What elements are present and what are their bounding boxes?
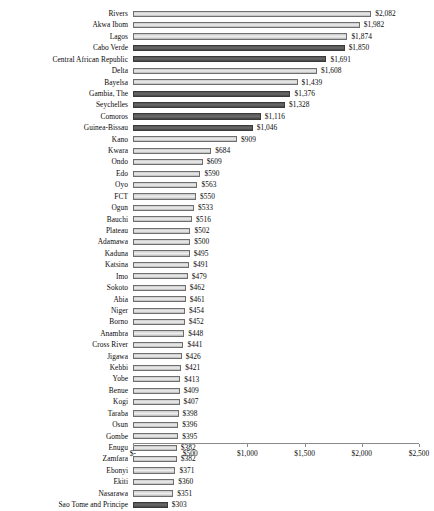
bar[interactable] [133, 182, 197, 188]
bar-row: Ekiti$360 [0, 476, 434, 487]
bar-value-label: $461 [190, 294, 205, 305]
bar[interactable] [133, 388, 180, 394]
bar-track: $448 [133, 328, 433, 339]
bar[interactable] [133, 410, 179, 416]
category-label: Kebbi [0, 362, 128, 373]
bar[interactable] [133, 148, 211, 154]
axis-tick-label: $2,000 [351, 448, 372, 459]
bar[interactable] [133, 399, 180, 405]
category-label: Kaduna [0, 248, 128, 259]
bar-value-label: $495 [194, 248, 209, 259]
bar[interactable] [133, 319, 185, 325]
bar-value-label: $398 [183, 408, 198, 419]
bar[interactable] [133, 296, 186, 302]
category-label: Comoros [0, 111, 128, 122]
bar-row: Niger$454 [0, 305, 434, 316]
bar[interactable] [133, 353, 182, 359]
bar-value-label: $303 [172, 499, 187, 510]
bar[interactable] [133, 239, 190, 245]
bar-row: Nasarawa$351 [0, 488, 434, 499]
bar[interactable] [133, 11, 371, 17]
category-label: Seychelles [0, 99, 128, 110]
bar[interactable] [133, 285, 186, 291]
bar[interactable] [133, 342, 183, 348]
category-label: Taraba [0, 408, 128, 419]
bar[interactable] [133, 171, 200, 177]
bar[interactable] [133, 330, 184, 336]
category-label: Sokoto [0, 282, 128, 293]
bar-value-label: $360 [178, 476, 193, 487]
bar[interactable] [133, 467, 175, 473]
category-label: Rivers [0, 8, 128, 19]
bar[interactable] [133, 365, 181, 371]
bar-value-label: $491 [193, 259, 208, 270]
bar[interactable] [133, 490, 173, 496]
chart-plot-area: Rivers$2,082Akwa Ibom$1,982Lagos$1,874Ca… [0, 8, 434, 511]
bar-value-label: $1,874 [351, 31, 372, 42]
bar-track: $461 [133, 294, 433, 305]
category-label: Jigawa [0, 351, 128, 362]
bar[interactable] [133, 125, 253, 131]
bar[interactable] [133, 193, 196, 199]
bar-row: Ebonyi$371 [0, 465, 434, 476]
bar-track: $407 [133, 396, 433, 407]
bar[interactable] [133, 45, 345, 51]
bar-track: $2,082 [133, 8, 433, 19]
category-label: Sao Tome and Principe [0, 499, 128, 510]
bar-track: $1,691 [133, 54, 433, 65]
axis-tick-label: $500 [183, 448, 198, 459]
bar[interactable] [133, 159, 203, 165]
bar[interactable] [133, 33, 347, 39]
axis-tick-label: $- [130, 448, 136, 459]
bar-value-label: $396 [182, 419, 197, 430]
bar-row: Anambra$448 [0, 328, 434, 339]
bar[interactable] [133, 22, 360, 28]
axis-tick-mark [419, 444, 420, 447]
bar-value-label: $1,046 [257, 122, 278, 133]
x-axis-ticks: $-$500$1,000$1,500$2,000$2,500 [0, 444, 434, 464]
bar[interactable] [133, 113, 261, 119]
bar[interactable] [133, 308, 185, 314]
category-label: Bauchi [0, 214, 128, 225]
bar[interactable] [133, 79, 298, 85]
bar-value-label: $1,376 [294, 88, 315, 99]
bar-track: $371 [133, 465, 433, 476]
bar[interactable] [133, 422, 178, 428]
bar-track: $1,376 [133, 88, 433, 99]
bar[interactable] [133, 250, 190, 256]
bar-track: $1,608 [133, 65, 433, 76]
bar[interactable] [133, 262, 189, 268]
bar[interactable] [133, 228, 190, 234]
category-label: Niger [0, 305, 128, 316]
bar[interactable] [133, 68, 317, 74]
bar-row: Osun$396 [0, 419, 434, 430]
bar[interactable] [133, 102, 285, 108]
bar[interactable] [133, 479, 174, 485]
category-label: Adamawa [0, 236, 128, 247]
bar[interactable] [133, 376, 180, 382]
bar[interactable] [133, 56, 326, 62]
bar-value-label: $502 [194, 225, 209, 236]
bar-row: Abia$461 [0, 294, 434, 305]
bar[interactable] [133, 91, 290, 97]
bar-track: $1,850 [133, 42, 433, 53]
bar[interactable] [133, 433, 178, 439]
bar-row: Imo$479 [0, 271, 434, 282]
bar-track: $441 [133, 339, 433, 350]
bar[interactable] [133, 273, 188, 279]
bar-row: Taraba$398 [0, 408, 434, 419]
bar[interactable] [133, 136, 237, 142]
bar-row: Kebbi$421 [0, 362, 434, 373]
bar[interactable] [133, 502, 168, 508]
bar-value-label: $371 [179, 465, 194, 476]
category-label: Yobe [0, 373, 128, 384]
category-label: Edo [0, 168, 128, 179]
bar-track: $909 [133, 134, 433, 145]
bar-track: $409 [133, 385, 433, 396]
bar-row: Jigawa$426 [0, 351, 434, 362]
bar-value-label: $452 [189, 316, 204, 327]
bar[interactable] [133, 205, 194, 211]
bar-track: $454 [133, 305, 433, 316]
category-label: Ogun [0, 202, 128, 213]
bar[interactable] [133, 216, 192, 222]
